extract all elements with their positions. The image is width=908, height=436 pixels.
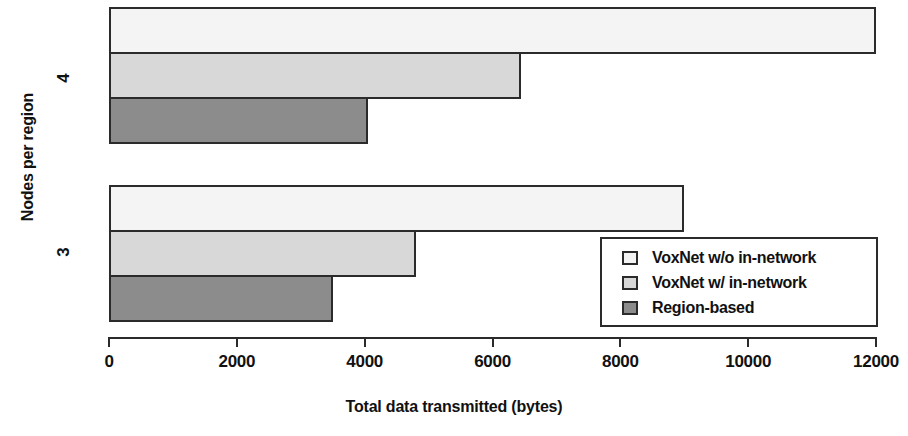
bar [109,7,876,54]
legend-swatch-voxnet-without-in-network [622,251,638,265]
x-tick-label: 6000 [433,352,553,372]
x-tick-label: 4000 [305,352,425,372]
x-tick-mark [236,337,238,347]
bar-chart-figure: Nodes per region 4 3 Total data transmit… [0,0,908,436]
x-tick-mark [747,337,749,347]
x-tick-mark [875,337,877,347]
legend-label-region-based: Region-based [652,299,754,317]
x-tick-label: 10000 [688,352,808,372]
legend-item-voxnet-with-in-network: VoxNet w/ in-network [622,271,807,295]
legend-label-voxnet-with-in-network: VoxNet w/ in-network [652,274,807,292]
x-tick-label: 0 [49,352,169,372]
bar [109,230,416,277]
legend-swatch-region-based [622,301,638,315]
x-tick-mark [619,337,621,347]
legend-swatch-voxnet-with-in-network [622,276,638,290]
x-axis-title: Total data transmitted (bytes) [0,398,908,416]
legend-label-voxnet-without-in-network: VoxNet w/o in-network [652,249,816,267]
bar [109,52,521,99]
bar [109,275,333,322]
x-tick-mark [492,337,494,347]
bar [109,185,684,232]
x-tick-label: 12000 [816,352,908,372]
bar [109,97,368,144]
x-tick-mark [364,337,366,347]
legend-item-voxnet-without-in-network: VoxNet w/o in-network [622,246,816,270]
x-tick-label: 2000 [177,352,297,372]
legend-item-region-based: Region-based [622,296,754,320]
x-tick-mark [108,337,110,347]
legend: VoxNet w/o in-network VoxNet w/ in-netwo… [600,237,878,327]
x-tick-label: 8000 [560,352,680,372]
